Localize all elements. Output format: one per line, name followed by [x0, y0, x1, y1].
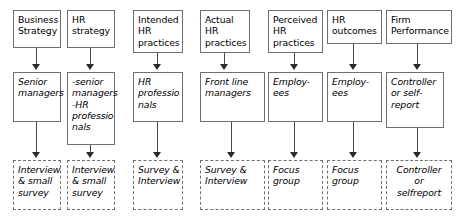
method-box-survey-interview-2: Survey & Interview — [200, 160, 265, 210]
arrow-line-c3-r2-r3 — [157, 122, 158, 154]
respondent-box-senior-managers-hr-professionals: -senior managers -HR professio nals — [67, 72, 115, 145]
method-box-interview-small-survey-2: Interview & small survey — [67, 160, 115, 210]
column-firm-performance: Firm Performance Controller or self- rep… — [386, 0, 452, 219]
respondent-box-front-line-managers: Front line managers — [200, 72, 265, 122]
arrow-line-c7-r1-r2 — [417, 44, 418, 66]
arrow-head-c1-r1-r2 — [32, 64, 40, 70]
arrow-head-c2-r1-r2 — [86, 64, 94, 70]
concept-box-hr-strategy: HR strategy — [67, 10, 115, 48]
arrow-head-c6-r1-r2 — [349, 64, 357, 70]
column-intended-hr-practices: Intended HR practices HR professio nals … — [133, 0, 183, 219]
arrow-head-c5-r2-r3 — [290, 152, 298, 158]
arrow-line-c7-r2-r3 — [417, 128, 418, 154]
arrow-line-c4-r2-r3 — [231, 122, 232, 154]
respondent-box-senior-managers: Senior managers — [13, 72, 61, 122]
concept-box-firm-performance: Firm Performance — [386, 10, 452, 44]
arrow-head-c4-r1-r2 — [220, 64, 228, 70]
arrow-head-c7-r2-r3 — [413, 152, 421, 158]
respondent-box-controller-or-self-report: Controller or self- report — [386, 72, 444, 128]
concept-box-intended-hr-practices: Intended HR practices — [133, 10, 183, 53]
concept-box-business-strategy: Business Strategy — [13, 10, 61, 48]
column-hr-outcomes: HR outcomes Employ- ees Focus group — [327, 0, 382, 219]
arrow-head-c1-r2-r3 — [32, 152, 40, 158]
concept-box-actual-hr-practices: Actual HR practices — [200, 10, 250, 53]
hr-measurement-diagram: Business Strategy Senior managers Interv… — [0, 0, 456, 219]
respondent-box-hr-professionals: HR professio nals — [133, 72, 183, 122]
arrow-head-c2-r2-r3 — [86, 152, 94, 158]
arrow-head-c7-r1-r2 — [413, 64, 421, 70]
arrow-head-c6-r2-r3 — [349, 152, 357, 158]
arrow-line-c5-r2-r3 — [294, 122, 295, 154]
method-box-focus-group-2: Focus group — [327, 160, 382, 210]
arrow-head-c5-r1-r2 — [290, 64, 298, 70]
concept-box-hr-outcomes: HR outcomes — [327, 10, 382, 44]
method-box-controller-or-selfreport: Controller or selfreport — [386, 160, 452, 210]
arrow-head-c3-r1-r2 — [153, 64, 161, 70]
method-box-survey-interview-1: Survey & Interview — [133, 160, 183, 210]
method-box-interview-small-survey-1: Interview & small survey — [13, 160, 61, 210]
respondent-box-employees-2: Employ- ees — [327, 72, 382, 122]
arrow-line-c6-r1-r2 — [353, 44, 354, 66]
column-actual-hr-practices: Actual HR practices Front line managers … — [200, 0, 265, 219]
arrow-head-c4-r2-r3 — [227, 152, 235, 158]
arrow-head-c3-r2-r3 — [153, 152, 161, 158]
column-perceived-hr-practices: Perceived HR practices Employ- ees Focus… — [268, 0, 323, 219]
arrow-line-c1-r2-r3 — [36, 122, 37, 154]
concept-box-perceived-hr-practices: Perceived HR practices — [268, 10, 323, 53]
arrow-line-c6-r2-r3 — [353, 122, 354, 154]
method-box-focus-group-1: Focus group — [268, 160, 323, 210]
respondent-box-employees-1: Employ- ees — [268, 72, 323, 122]
column-hr-strategy: HR strategy -senior managers -HR profess… — [67, 0, 115, 219]
column-business-strategy: Business Strategy Senior managers Interv… — [13, 0, 61, 219]
